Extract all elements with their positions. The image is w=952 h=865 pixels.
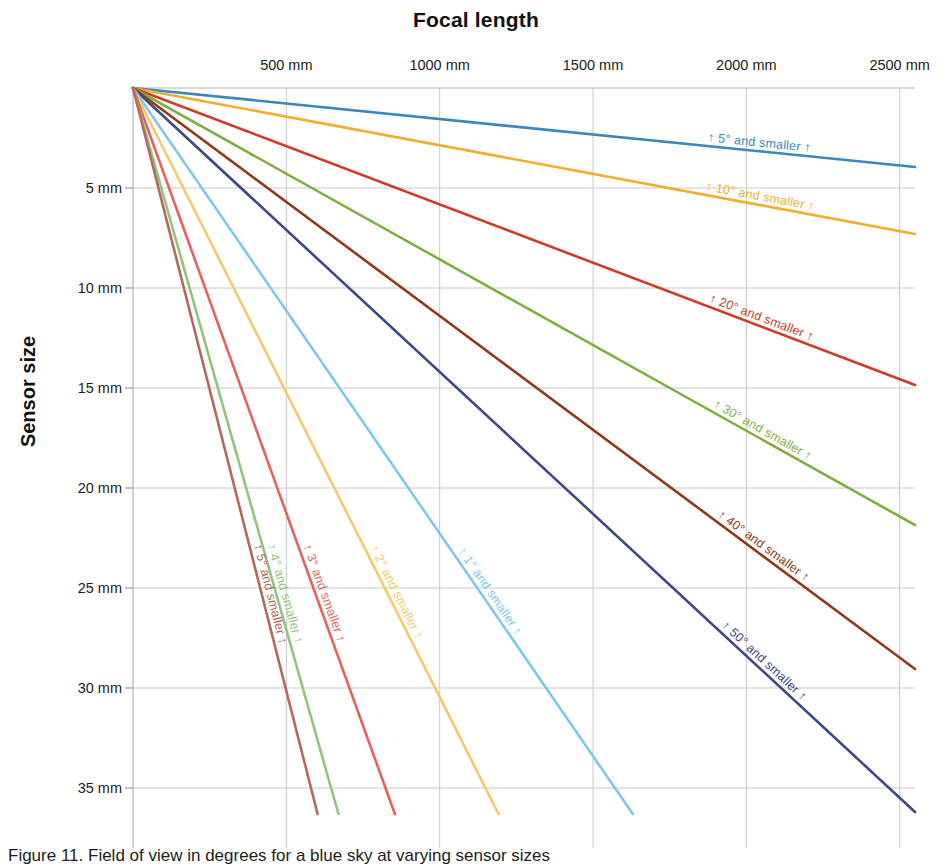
series-4-deg: [133, 88, 338, 814]
series-label-2-deg: ↑ 2° and smaller ↑: [367, 543, 426, 641]
series-5-deg-steep: [133, 88, 318, 814]
series-5-deg: [133, 88, 915, 167]
series-label-3-deg: ↑ 3° and smaller ↑: [300, 542, 348, 644]
series-label-40-deg: ↑ 40° and smaller ↑: [715, 507, 812, 584]
series-label-20-deg: ↑ 20° and smaller ↑: [708, 291, 816, 343]
series-label-10-deg: ↑ 10° and smaller ↑: [705, 179, 816, 213]
series-40-deg: [133, 88, 915, 669]
figure-caption: Figure 11. Field of view in degrees for …: [8, 846, 550, 865]
series-1-deg: [133, 88, 633, 814]
series-2-deg: [133, 88, 499, 814]
series-3-deg: [133, 88, 395, 814]
series-inline-labels: ↑ 5° and smaller ↑↑ 10° and smaller ↑↑ 2…: [251, 130, 816, 703]
series-label-1-deg: ↑ 1° and smaller ↑: [455, 545, 525, 638]
series-label-30-deg: ↑ 30° and smaller ↑: [711, 397, 814, 463]
figure-root: Focal length Sensor size 500 mm1000 mm15…: [0, 0, 952, 865]
series-10-deg: [133, 88, 915, 234]
series-label-50-deg: ↑ 50° and smaller ↑: [719, 618, 809, 703]
series-30-deg: [133, 88, 915, 525]
series-20-deg: [133, 88, 915, 385]
chart-plot-area: ↑ 5° and smaller ↑↑ 10° and smaller ↑↑ 2…: [0, 0, 952, 865]
